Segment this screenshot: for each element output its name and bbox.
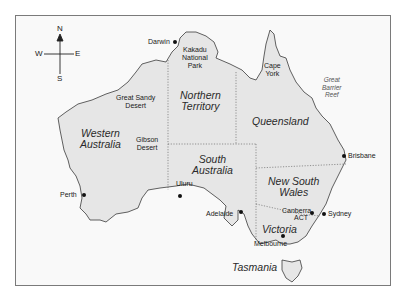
state-western-australia: WesternAustralia (80, 128, 121, 150)
state-victoria: Victoria (262, 224, 297, 235)
state-queensland: Queensland (252, 116, 309, 127)
label-perth: Perth (60, 191, 77, 199)
compass-s: S (57, 74, 62, 83)
state-northern-territory: NorthernTerritory (180, 90, 221, 112)
state-south-australia: SouthAustralia (192, 154, 233, 176)
label-brisbane: Brisbane (348, 152, 376, 160)
compass-rose (44, 34, 74, 74)
label-adelaide: Adelaide (206, 210, 233, 218)
label-gibson-desert: GibsonDesert (136, 136, 158, 152)
tasmania-outline (282, 260, 302, 282)
compass-w: W (35, 49, 43, 58)
label-melbourne: Melbourne (254, 240, 287, 248)
label-uluru: Uluru (176, 180, 193, 188)
label-act: ACT (294, 214, 308, 222)
state-tasmania: Tasmania (232, 262, 277, 273)
label-kakadu: KakaduNationalPark (182, 46, 208, 70)
label-cape-york: CapeYork (264, 62, 281, 78)
compass-n: N (57, 24, 63, 33)
state-new-south-wales: New SouthWales (268, 176, 319, 198)
compass-e: E (75, 49, 80, 58)
label-great-barrier-reef: GreatBarrierReef (322, 76, 342, 99)
label-darwin: Darwin (148, 38, 170, 46)
label-sydney: Sydney (328, 210, 351, 218)
label-great-sandy-desert: Great SandyDesert (116, 94, 155, 110)
